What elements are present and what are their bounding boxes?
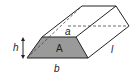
trapezoidal-prism-diagram: A a b h l (0, 0, 137, 79)
top-left-edge (42, 6, 82, 37)
height-label: h (13, 42, 19, 53)
top-width-label: a (65, 26, 71, 37)
bottom-width-label: b (54, 63, 60, 74)
bottom-right-edge (88, 26, 129, 58)
arrow-down-icon (21, 55, 25, 59)
back-right-edge (116, 6, 129, 26)
area-label: A (56, 43, 63, 54)
arrow-up-icon (21, 37, 25, 41)
top-right-edge (76, 6, 116, 37)
length-label: l (111, 44, 114, 55)
